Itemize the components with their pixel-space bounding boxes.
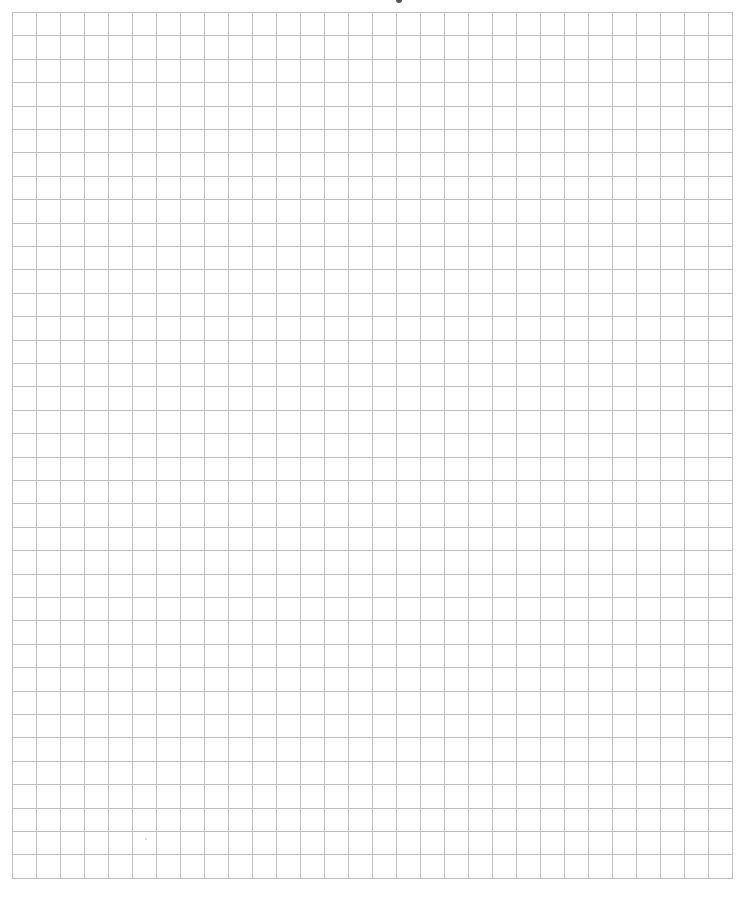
stray-dot: [145, 838, 147, 840]
graph-paper-page: [0, 0, 741, 905]
square-grid: [12, 12, 733, 879]
cropped-text-fragment: [396, 0, 402, 3]
